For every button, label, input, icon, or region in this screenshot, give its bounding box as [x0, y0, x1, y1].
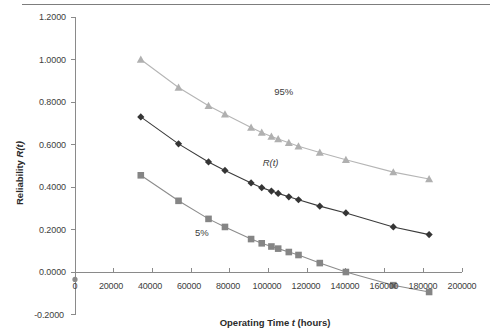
- data-point-marker: [316, 203, 323, 210]
- y-axis-title: Reliability R(t): [14, 141, 25, 205]
- data-point-marker: [247, 124, 255, 131]
- data-point-marker: [275, 245, 282, 252]
- data-point-marker: [205, 158, 212, 165]
- data-point-marker: [248, 236, 255, 243]
- y-tick-label: -0.2000: [12, 310, 64, 320]
- x-tick-label: 200000: [436, 281, 488, 291]
- y-tick-label: 1.2000: [14, 12, 66, 22]
- data-point-marker: [275, 190, 282, 197]
- data-point-marker: [286, 249, 293, 256]
- chart-series: [137, 56, 433, 183]
- data-point-marker: [343, 269, 350, 276]
- y-tick-label: 1.0000: [14, 55, 66, 65]
- x-axis-title-text: Operating Time: [220, 317, 292, 328]
- data-point-marker: [390, 223, 397, 230]
- reliability-chart-figure: 1.2000 1.0000 0.8000 0.6000 0.4000 0.200…: [0, 0, 498, 335]
- series-annotation-label: 5%: [195, 227, 209, 238]
- data-point-marker: [175, 140, 182, 147]
- data-point-marker: [285, 139, 293, 146]
- data-point-marker: [268, 243, 275, 250]
- chart-series: [137, 172, 432, 295]
- data-point-marker: [258, 184, 265, 191]
- data-point-marker: [175, 84, 183, 91]
- data-point-marker: [295, 252, 302, 259]
- data-point-marker: [426, 231, 433, 238]
- x-axis-title: Operating Time t (hours): [125, 317, 425, 328]
- data-point-marker: [137, 113, 144, 120]
- data-point-marker: [274, 135, 282, 142]
- data-point-marker: [342, 209, 349, 216]
- series-annotation-label: R(t): [263, 157, 279, 168]
- data-point-marker: [205, 102, 213, 109]
- series-line: [141, 175, 429, 292]
- data-point-marker: [221, 110, 229, 117]
- y-tick-label: 0.2000: [14, 225, 66, 235]
- data-point-marker: [316, 260, 323, 267]
- data-point-marker: [294, 142, 302, 149]
- data-point-marker: [247, 179, 254, 186]
- x-axis-title-units: (hours): [295, 317, 330, 328]
- data-point-marker: [137, 172, 144, 179]
- y-axis-title-text: Reliability: [14, 157, 25, 205]
- y-tick-label: 0.8000: [14, 97, 66, 107]
- data-point-marker: [258, 240, 265, 247]
- data-point-marker: [267, 132, 275, 139]
- data-point-marker: [295, 196, 302, 203]
- data-point-marker: [268, 187, 275, 194]
- chart-series: [137, 113, 433, 238]
- series-annotation-label: 95%: [274, 86, 293, 97]
- data-point-marker: [175, 198, 182, 205]
- y-tick-label: 0.0000: [14, 267, 66, 277]
- data-point-marker: [137, 56, 145, 63]
- series-line: [141, 117, 429, 235]
- y-axis-title-var: R(t): [14, 141, 25, 157]
- data-point-marker: [221, 167, 228, 174]
- data-point-marker: [285, 193, 292, 200]
- series-line: [141, 60, 429, 179]
- data-point-marker: [258, 129, 266, 136]
- data-point-marker: [222, 224, 229, 231]
- data-point-marker: [205, 216, 212, 223]
